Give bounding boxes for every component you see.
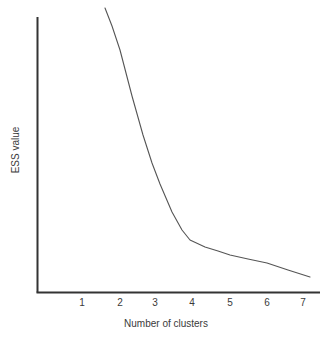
x-tick-label-6: 6 xyxy=(257,297,277,309)
x-tick-label-7: 7 xyxy=(293,297,313,309)
x-tick-label-2: 2 xyxy=(110,297,130,309)
chart-figure: 1 2 3 4 5 6 7 Number of clusters ESS val… xyxy=(0,0,332,342)
x-tick-label-1: 1 xyxy=(72,297,92,309)
x-axis-title: Number of clusters xyxy=(0,318,332,330)
plot-area xyxy=(0,0,332,342)
x-tick-label-4: 4 xyxy=(182,297,202,309)
x-tick-label-3: 3 xyxy=(145,297,165,309)
y-axis-title: ESS value xyxy=(10,120,22,180)
chart-background xyxy=(0,0,332,342)
x-tick-label-5: 5 xyxy=(220,297,240,309)
